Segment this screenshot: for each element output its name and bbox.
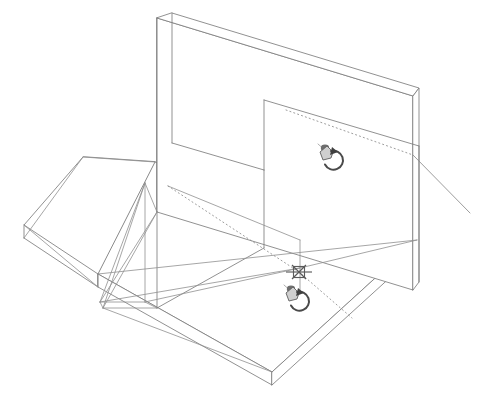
- upright-plate-right-thickness: [413, 88, 419, 290]
- isometric-wireframe-drawing[interactable]: Isometric CAD Wireframe Viewport: [0, 0, 482, 396]
- cad-viewport[interactable]: Isometric CAD Wireframe Viewport: [0, 0, 482, 396]
